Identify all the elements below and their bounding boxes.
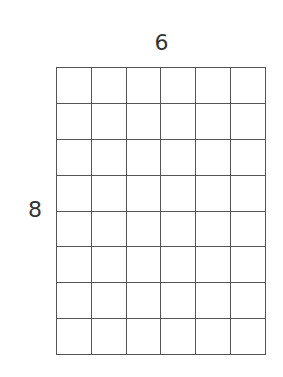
grid-cell xyxy=(161,319,196,355)
columns-count-label: 6 xyxy=(56,30,267,56)
grid-cell xyxy=(127,140,162,176)
grid-cell xyxy=(92,104,127,140)
grid-cell xyxy=(231,319,266,355)
rows-count-label: 8 xyxy=(20,197,50,223)
grid-cell xyxy=(196,319,231,355)
grid-cell xyxy=(57,104,92,140)
grid-cell xyxy=(127,68,162,104)
grid-cell xyxy=(161,247,196,283)
grid-cell xyxy=(161,68,196,104)
grid-cell xyxy=(127,212,162,248)
grid-cell xyxy=(161,176,196,212)
grid-cell xyxy=(231,176,266,212)
unit-grid xyxy=(56,67,266,355)
grid-cell xyxy=(57,176,92,212)
grid-cell xyxy=(231,247,266,283)
grid-cell xyxy=(161,104,196,140)
grid-cell xyxy=(161,283,196,319)
grid-cell xyxy=(127,104,162,140)
grid-cell xyxy=(231,68,266,104)
grid-cell xyxy=(92,68,127,104)
grid-cell xyxy=(57,247,92,283)
grid-cell xyxy=(127,319,162,355)
grid-cell xyxy=(127,247,162,283)
grid-cell xyxy=(231,283,266,319)
grid-cell xyxy=(196,212,231,248)
grid-cell xyxy=(57,68,92,104)
grid-cell xyxy=(92,140,127,176)
grid-cell xyxy=(196,176,231,212)
grid-cell xyxy=(196,283,231,319)
grid-cell xyxy=(57,319,92,355)
grid-cell xyxy=(196,104,231,140)
grid-cell xyxy=(57,140,92,176)
grid-cell xyxy=(161,140,196,176)
grid-cell xyxy=(231,140,266,176)
grid-cell xyxy=(231,104,266,140)
grid-cell xyxy=(127,283,162,319)
grid-cell xyxy=(196,140,231,176)
grid-cell xyxy=(57,212,92,248)
grid-cell xyxy=(92,283,127,319)
grid-cell xyxy=(161,212,196,248)
grid-cell xyxy=(57,283,92,319)
grid-cell xyxy=(92,319,127,355)
grid-cell xyxy=(92,176,127,212)
grid-cell xyxy=(127,176,162,212)
grid-cell xyxy=(196,247,231,283)
grid-cell xyxy=(196,68,231,104)
grid-cell xyxy=(231,212,266,248)
grid-cell xyxy=(92,247,127,283)
grid-cell xyxy=(92,212,127,248)
